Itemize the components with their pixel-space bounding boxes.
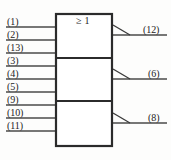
- amplifier-wedge-8: [113, 113, 130, 123]
- amplifier-wedge-group: [113, 25, 130, 123]
- output-pin-label-12: (12): [143, 25, 159, 35]
- input-pin-label-1: (1): [7, 17, 18, 27]
- amplifier-wedge-12: [113, 25, 130, 35]
- input-pin-label-11: (11): [7, 121, 23, 131]
- input-pin-label-4: (4): [7, 69, 18, 79]
- logic-gate-diagram: ≥ 1 (1) (2) (13) (3) (4) (5) (9) (10) (1…: [0, 0, 171, 160]
- gate-qualifying-symbol: ≥ 1: [76, 16, 90, 26]
- output-pin-label-6: (6): [148, 69, 159, 79]
- gate-body-outline: [56, 14, 112, 146]
- amplifier-wedge-6: [113, 69, 130, 79]
- input-pin-label-9: (9): [7, 95, 18, 105]
- input-pin-label-5: (5): [7, 82, 18, 92]
- output-pin-label-8: (8): [148, 113, 159, 123]
- input-pin-label-2: (2): [7, 30, 18, 40]
- input-pin-label-13: (13): [7, 43, 23, 53]
- input-pin-label-10: (10): [7, 108, 23, 118]
- input-pin-label-3: (3): [7, 56, 18, 66]
- output-wire-group: [112, 35, 167, 123]
